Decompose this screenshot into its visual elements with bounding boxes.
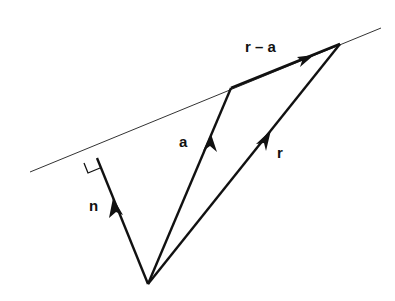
label-a: a bbox=[179, 133, 188, 150]
vector-n-line bbox=[97, 158, 148, 284]
label-r: r bbox=[277, 144, 283, 161]
vector-plane-diagram: r – a a r n bbox=[0, 0, 395, 301]
vector-a-line bbox=[148, 88, 231, 284]
right-angle-marker bbox=[84, 163, 100, 173]
label-r-minus-a: r – a bbox=[245, 38, 277, 55]
vector-r-line bbox=[148, 44, 340, 284]
label-n: n bbox=[89, 197, 98, 214]
vector-a-arrowhead bbox=[203, 134, 217, 152]
